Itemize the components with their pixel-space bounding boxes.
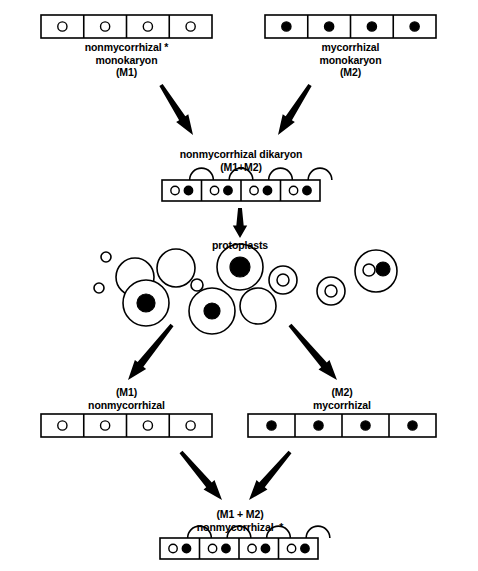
- dikaryon-hypha: [162, 168, 332, 201]
- arrow-m1-to-dikaryon: [159, 84, 193, 135]
- nucleus-open: [169, 544, 177, 552]
- top-right-monokaryon-hypha: [265, 15, 436, 38]
- nucleus-open: [143, 22, 152, 31]
- protoplast-membrane: [101, 252, 111, 262]
- top-left-monokaryon-hypha: [41, 15, 212, 38]
- diagram-drawing-layer: [0, 0, 478, 571]
- nucleus-filled: [325, 22, 334, 31]
- nucleus-filled: [376, 262, 390, 276]
- nucleus-filled: [222, 544, 230, 552]
- nucleus-filled: [182, 544, 190, 552]
- caption-bottom-right-monokaryon: (M2) mycorrhizal: [248, 386, 436, 411]
- nucleus-open: [101, 22, 110, 31]
- nucleus-filled: [367, 22, 376, 31]
- nucleus-open: [210, 186, 218, 194]
- nucleus-filled: [314, 421, 323, 430]
- nucleus-filled: [137, 294, 155, 312]
- nucleus-open: [58, 421, 67, 430]
- caption-dikaryon: nonmycorrhizal dikaryon (M1+M2): [160, 148, 322, 173]
- protoplast-membrane: [191, 279, 203, 291]
- arrow-proto-to-m2: [289, 324, 337, 380]
- nucleus-filled: [282, 22, 291, 31]
- nucleus-open: [208, 544, 216, 552]
- nucleus-open: [58, 22, 67, 31]
- nucleus-open: [250, 186, 258, 194]
- mycorrhizal-dikaryon-protoplast-diagram: nonmycorrhizal * monokaryon (M1) mycorrh…: [0, 0, 478, 571]
- protoplast-membrane: [94, 283, 104, 293]
- nucleus-open: [186, 22, 195, 31]
- nucleus-open: [277, 274, 289, 286]
- bottom-left-monokaryon-hypha: [41, 414, 212, 437]
- caption-final-dikaryon: (M1 + M2) nonmycorrhizal *: [159, 508, 321, 533]
- nucleus-filled: [301, 544, 309, 552]
- nucleus-filled: [267, 421, 276, 430]
- nucleus-open: [171, 186, 179, 194]
- nucleus-open: [248, 544, 256, 552]
- caption-top-right-monokaryon: mycorrhizal monokaryon (M2): [265, 41, 436, 79]
- nucleus-filled: [184, 186, 192, 194]
- nucleus-filled: [263, 186, 271, 194]
- nucleus-open: [287, 544, 295, 552]
- nucleus-open: [186, 421, 195, 430]
- arrow-dikaryon-to-proto: [233, 208, 247, 238]
- nucleus-open: [101, 421, 110, 430]
- nucleus-filled: [204, 303, 220, 319]
- bottom-right-monokaryon-hypha: [248, 414, 436, 437]
- nucleus-filled: [408, 421, 417, 430]
- caption-protoplasts: protoplasts: [190, 239, 290, 252]
- nucleus-filled: [230, 257, 250, 277]
- arrow-m1-to-final: [180, 451, 222, 500]
- nucleus-filled: [261, 544, 269, 552]
- nucleus-open: [363, 264, 375, 276]
- nucleus-filled: [224, 186, 232, 194]
- protoplast-membrane: [240, 288, 276, 324]
- nucleus-filled: [303, 186, 311, 194]
- arrow-m2-to-dikaryon: [278, 84, 312, 135]
- protoplast-membrane: [157, 249, 195, 287]
- nucleus-filled: [361, 421, 370, 430]
- caption-top-left-monokaryon: nonmycorrhizal * monokaryon (M1): [41, 41, 212, 79]
- caption-bottom-left-monokaryon: (M1) nonmycorrhizal: [41, 386, 212, 411]
- nucleus-open: [289, 186, 297, 194]
- arrow-proto-to-m1: [128, 324, 174, 380]
- nucleus-open: [325, 285, 337, 297]
- nucleus-open: [143, 421, 152, 430]
- protoplast-field: [94, 244, 397, 334]
- nucleus-filled: [410, 22, 419, 31]
- arrow-m2-to-final: [249, 451, 291, 500]
